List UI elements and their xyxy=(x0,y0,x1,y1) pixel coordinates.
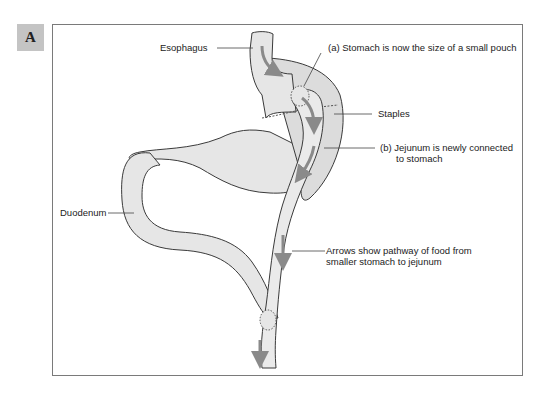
anastomosis-bottom xyxy=(260,310,276,330)
label-jejunum-line1: (b) Jejunum is newly connected xyxy=(380,142,513,153)
esophagus xyxy=(250,32,296,118)
label-esophagus: Esophagus xyxy=(160,42,208,53)
label-arrows-line2: smaller stomach to jejunum xyxy=(326,256,442,267)
label-stomach-pouch: (a) Stomach is now the size of a small p… xyxy=(328,42,517,53)
label-duodenum: Duodenum xyxy=(60,207,106,218)
label-staples: Staples xyxy=(378,108,410,119)
label-jejunum-line2: to stomach xyxy=(396,153,442,164)
label-arrows-line1: Arrows show pathway of food from xyxy=(326,245,472,256)
gastric-bypass-illustration xyxy=(0,0,544,399)
